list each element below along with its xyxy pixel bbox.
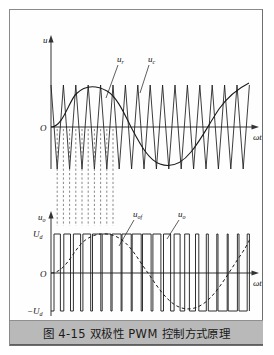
- label-uc-annotation: uc: [140, 54, 156, 93]
- lower-x-axis-label: ωt: [253, 278, 262, 288]
- lower-panel: uof uo uo: [27, 209, 262, 317]
- lower-tick-label-ud-negative: −Ud: [27, 306, 44, 317]
- label-ur-text: ur: [117, 54, 125, 65]
- plot-area: ur uc u ωt O: [21, 21, 271, 324]
- upper-origin-label: O: [40, 123, 47, 133]
- upper-y-axis: [48, 35, 53, 169]
- lower-tick-label-ud-positive: Ud: [33, 229, 44, 240]
- lower-y-axis: [48, 211, 53, 316]
- upper-panel: ur uc u ωt O: [40, 35, 262, 169]
- label-ur-annotation: ur: [106, 54, 125, 98]
- lower-y-axis-label: uo: [38, 212, 46, 223]
- label-uo-text: uo: [178, 209, 186, 220]
- figure-caption-text: 图 4-15 双极性 PWM 控制方式原理: [43, 325, 230, 341]
- label-uo-annotation: uo: [167, 209, 186, 239]
- figure-container: ur uc u ωt O: [0, 0, 274, 355]
- label-uc-text: uc: [148, 54, 156, 65]
- figure-frame-border: ur uc u ωt O: [9, 9, 263, 346]
- figure-caption-band: 图 4-15 双极性 PWM 控制方式原理: [10, 320, 263, 345]
- label-uof-text: uof: [133, 209, 144, 220]
- upper-x-axis-label: ωt: [253, 132, 262, 142]
- upper-y-axis-label: u: [43, 35, 48, 45]
- waveform-diagram-svg: ur uc u ωt O: [21, 21, 271, 324]
- lower-origin-label: O: [40, 269, 47, 279]
